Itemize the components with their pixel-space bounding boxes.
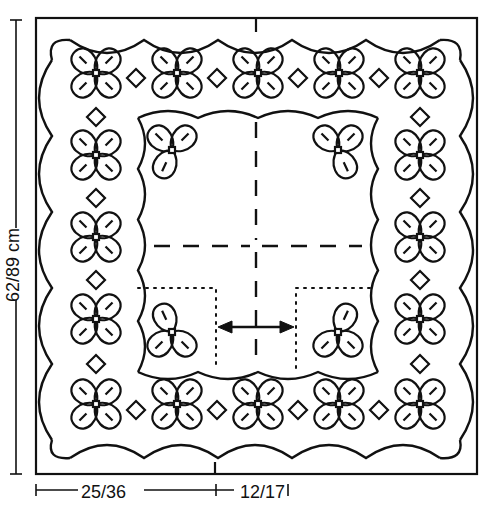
four-leaf-flower-icon — [152, 48, 201, 97]
four-leaf-flower-icon — [233, 379, 282, 428]
diamond-icon — [208, 401, 226, 419]
three-leaf-corner-icon — [313, 125, 362, 178]
four-leaf-flower-icon — [233, 48, 282, 97]
diamond-icon — [289, 401, 307, 419]
tablecloth-diagram — [0, 0, 490, 514]
diamond-icon — [411, 108, 429, 126]
four-leaf-flower-icon — [395, 48, 444, 97]
four-leaf-flower-icon — [395, 130, 444, 179]
diamond-icon — [87, 271, 105, 289]
height-dimension-label: 62/89 cm — [4, 228, 22, 302]
three-leaf-corner-icon — [147, 304, 196, 357]
three-leaf-corner-icon — [147, 125, 196, 178]
dimension-lines — [10, 20, 288, 496]
diamond-icon — [127, 401, 145, 419]
diamond-icon — [87, 355, 105, 373]
diamond-icon — [87, 189, 105, 207]
four-leaf-flower-icon — [395, 212, 444, 261]
four-leaf-flower-icon — [71, 212, 120, 261]
diamond-icon — [411, 189, 429, 207]
diamond-icon — [411, 271, 429, 289]
diamond-icon — [370, 69, 388, 87]
diamond-icon — [411, 355, 429, 373]
diamond-icon — [370, 401, 388, 419]
four-leaf-flower-icon — [71, 379, 120, 428]
three-leaf-corner-icon — [313, 304, 362, 357]
four-leaf-flower-icon — [395, 294, 444, 343]
four-leaf-flower-icon — [152, 379, 201, 428]
diamond-motifs — [87, 69, 429, 419]
diamond-icon — [208, 69, 226, 87]
four-leaf-flower-icon — [395, 379, 444, 428]
width-right-dimension-label: 12/17 — [240, 483, 285, 501]
four-leaf-flower-icon — [71, 48, 120, 97]
four-leaf-flower-icon — [314, 379, 363, 428]
width-left-dimension-label: 25/36 — [81, 483, 126, 501]
diamond-icon — [127, 69, 145, 87]
four-leaf-flower-icon — [71, 130, 120, 179]
diamond-icon — [87, 108, 105, 126]
four-leaf-flower-icon — [71, 294, 120, 343]
diamond-icon — [289, 69, 307, 87]
four-leaf-flower-icon — [314, 48, 363, 97]
